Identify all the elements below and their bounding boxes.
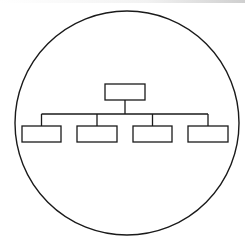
outer-circle — [15, 11, 239, 235]
child-node-box-3 — [133, 126, 172, 142]
root-node-box — [105, 84, 145, 100]
child-node-box-4 — [188, 126, 228, 142]
connector-lines — [42, 100, 209, 126]
child-node-box-1 — [22, 126, 61, 142]
org-chart-icon — [0, 0, 245, 248]
child-node-box-2 — [77, 126, 117, 142]
